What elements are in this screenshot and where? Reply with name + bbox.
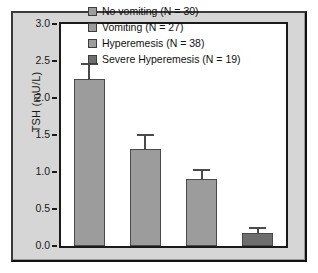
y-axis-tick-label: 0.0 (35, 239, 50, 251)
y-axis-tick-label: 3.0 (35, 17, 50, 29)
y-axis-tick-mark (52, 60, 57, 62)
legend-item-label: No vomiting (N = 30) (102, 5, 199, 17)
y-axis-tick-label: 2.0 (35, 91, 50, 103)
legend-swatch-icon (88, 23, 97, 32)
y-axis-tick-mark (52, 23, 57, 25)
y-axis-tick-mark (52, 134, 57, 136)
legend-swatch-icon (88, 39, 97, 48)
error-bar-cap (249, 227, 266, 229)
legend-item-label: Hyperemesis (N = 38) (102, 37, 204, 49)
legend-item: Hyperemesis (N = 38) (88, 36, 241, 50)
legend-item-label: Vomiting (N = 27) (102, 21, 183, 33)
y-axis-tick-mark (52, 208, 57, 210)
y-axis-tick-label: 1.5 (35, 128, 50, 140)
legend-swatch-icon (88, 55, 97, 64)
y-axis-tick-mark (52, 171, 57, 173)
y-axis-tick-mark (52, 245, 57, 247)
legend-swatch-icon (88, 7, 97, 16)
error-bar-cap (193, 169, 210, 171)
legend-item: Vomiting (N = 27) (88, 20, 241, 34)
bar (130, 149, 161, 246)
y-axis-tick-label: 0.5 (35, 202, 50, 214)
figure-canvas: TSH (mU/L) 0.00.51.01.52.02.53.0 No vomi… (0, 0, 318, 273)
legend-item: Severe Hyperemesis (N = 19) (88, 52, 241, 66)
y-axis: TSH (mU/L) 0.00.51.01.52.02.53.0 (11, 0, 59, 273)
bar (186, 179, 217, 246)
legend-item-label: Severe Hyperemesis (N = 19) (102, 53, 241, 65)
legend-item: No vomiting (N = 30) (88, 4, 241, 18)
chart-legend: No vomiting (N = 30)Vomiting (N = 27)Hyp… (88, 4, 241, 68)
bar (74, 79, 105, 246)
error-bar-line (144, 134, 146, 150)
y-axis-tick-label: 2.5 (35, 54, 50, 66)
y-axis-tick-label: 1.0 (35, 165, 50, 177)
bar (242, 233, 273, 246)
error-bar-cap (137, 134, 154, 136)
y-axis-tick-mark (52, 97, 57, 99)
